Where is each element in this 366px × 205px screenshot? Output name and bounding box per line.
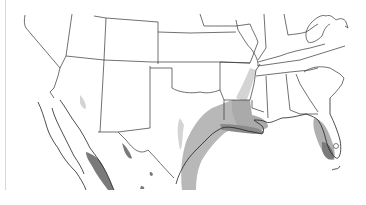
shaded-regions: [80, 68, 339, 190]
map-canvas: [0, 0, 366, 205]
map: [0, 0, 366, 205]
